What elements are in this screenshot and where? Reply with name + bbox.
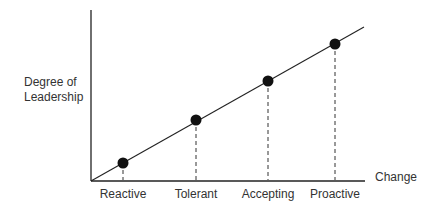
marker-accepting bbox=[263, 76, 274, 87]
tick-label-tolerant: Tolerant bbox=[175, 187, 218, 201]
tick-label-reactive: Reactive bbox=[100, 187, 147, 201]
y-axis-label-line1: Degree of bbox=[24, 75, 83, 90]
y-axis-label: Degree of Leadership bbox=[24, 75, 83, 105]
marker-tolerant bbox=[191, 115, 202, 126]
tick-label-accepting: Accepting bbox=[242, 187, 295, 201]
marker-proactive bbox=[330, 39, 341, 50]
marker-reactive bbox=[118, 158, 129, 169]
y-axis-label-line2: Leadership bbox=[24, 90, 83, 105]
leadership-change-diagram bbox=[0, 0, 429, 212]
x-axis-label: Change bbox=[375, 170, 417, 184]
tick-label-proactive: Proactive bbox=[310, 187, 360, 201]
drop-lines bbox=[123, 44, 335, 180]
trend-line bbox=[91, 27, 364, 181]
